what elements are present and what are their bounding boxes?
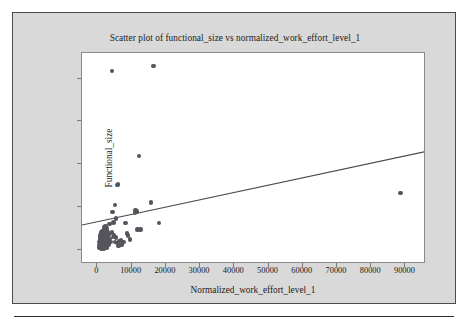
- x-axis-label: Normalized_work_effort_level_1: [81, 285, 425, 295]
- y-tick-mark: [77, 78, 81, 79]
- x-tick-label: 0: [94, 266, 98, 275]
- figure-root: Scatter plot of functional_size vs norma…: [0, 0, 468, 324]
- x-tick-mark: [370, 263, 371, 267]
- x-tick-mark: [404, 263, 405, 267]
- x-tick-mark: [268, 263, 269, 267]
- x-tick-label: 30000: [189, 266, 210, 275]
- y-tick-mark: [77, 249, 81, 250]
- chart-title: Scatter plot of functional_size vs norma…: [13, 33, 457, 43]
- y-axis-label: Functional_size: [104, 83, 114, 233]
- x-tick-label: 50000: [257, 266, 278, 275]
- bottom-divider: [14, 316, 454, 317]
- x-tick-mark: [233, 263, 234, 267]
- x-tick-label: 70000: [326, 266, 347, 275]
- y-tick-mark: [77, 206, 81, 207]
- x-tick-label: 10000: [120, 266, 141, 275]
- x-tick-label: 40000: [223, 266, 244, 275]
- x-tick-mark: [336, 263, 337, 267]
- x-tick-label: 60000: [291, 266, 312, 275]
- x-tick-label: 80000: [360, 266, 381, 275]
- y-tick-mark: [77, 163, 81, 164]
- x-tick-label: 20000: [154, 266, 175, 275]
- x-tick-mark: [96, 263, 97, 267]
- x-tick-mark: [131, 263, 132, 267]
- x-tick-mark: [165, 263, 166, 267]
- x-tick-mark: [302, 263, 303, 267]
- axes-layer: Functional_size 01000200030004000 010000…: [81, 52, 425, 263]
- x-tick-mark: [199, 263, 200, 267]
- y-tick-mark: [77, 120, 81, 121]
- x-tick-label: 90000: [394, 266, 415, 275]
- figure-panel: Scatter plot of functional_size vs norma…: [12, 12, 456, 304]
